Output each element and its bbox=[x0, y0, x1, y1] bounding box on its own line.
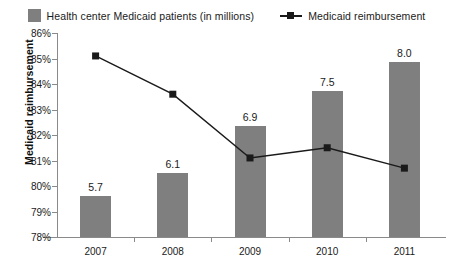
line-marker-2009 bbox=[247, 154, 254, 161]
chart-container: Health center Medicaid patients (in mill… bbox=[0, 0, 453, 265]
x-tick-mark bbox=[289, 237, 290, 242]
y-tick-label-84: 84% bbox=[31, 79, 51, 90]
legend-label-bars: Health center Medicaid patients (in mill… bbox=[47, 10, 255, 22]
line-marker-2010 bbox=[324, 144, 331, 151]
y-tick-label-80: 80% bbox=[31, 181, 51, 192]
y-tick-label-83: 83% bbox=[31, 104, 51, 115]
plot-area: 78%79%80%81%82%83%84%85%86% 200720082009… bbox=[57, 33, 443, 237]
bar-data-label-2008: 6.1 bbox=[165, 158, 180, 170]
bar-data-label-2007: 5.7 bbox=[88, 181, 103, 193]
x-tick-mark bbox=[211, 237, 212, 242]
bar-data-label-2010: 7.5 bbox=[320, 76, 335, 88]
legend-item-bars: Health center Medicaid patients (in mill… bbox=[28, 9, 255, 22]
y-tick-label-79: 79% bbox=[31, 206, 51, 217]
x-tick-mark bbox=[366, 237, 367, 242]
x-axis-line bbox=[43, 237, 446, 238]
x-tick-label-2007: 2007 bbox=[84, 246, 106, 257]
x-tick-label-2010: 2010 bbox=[316, 246, 338, 257]
y-tick-label-85: 85% bbox=[31, 53, 51, 64]
chart-legend: Health center Medicaid patients (in mill… bbox=[0, 9, 453, 22]
legend-label-line: Medicaid reimbursement bbox=[308, 10, 425, 22]
line-marker-icon bbox=[280, 10, 302, 21]
line-marker-2007 bbox=[92, 52, 99, 59]
y-tick-label-78: 78% bbox=[31, 232, 51, 243]
x-tick-label-2008: 2008 bbox=[162, 246, 184, 257]
x-tick-mark bbox=[134, 237, 135, 242]
y-tick-label-82: 82% bbox=[31, 130, 51, 141]
y-tick-label-86: 86% bbox=[31, 28, 51, 39]
line-marker-2008 bbox=[169, 91, 176, 98]
x-tick-label-2011: 2011 bbox=[394, 246, 416, 257]
bar-data-label-2011: 8.0 bbox=[397, 47, 412, 59]
line-marker-2011 bbox=[401, 165, 408, 172]
y-tick-mark bbox=[52, 237, 57, 238]
y-tick-label-81: 81% bbox=[31, 155, 51, 166]
bar-data-label-2009: 6.9 bbox=[243, 111, 258, 123]
line-series-group bbox=[57, 33, 443, 237]
x-tick-label-2009: 2009 bbox=[239, 246, 261, 257]
legend-item-line: Medicaid reimbursement bbox=[280, 10, 425, 22]
